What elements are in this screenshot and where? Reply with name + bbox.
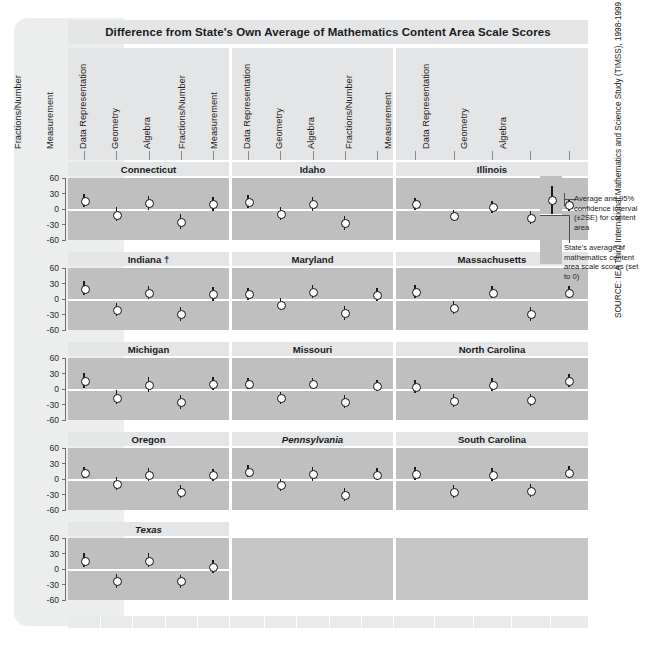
bottom-axis-tick (264, 616, 265, 628)
data-point-measurement (446, 178, 462, 240)
content-area-header-label: Geometry (99, 49, 131, 150)
data-point-geometry (173, 538, 189, 600)
state-panel-oregon: Oregon (68, 432, 229, 522)
header-tick (569, 151, 570, 160)
state-name-label: Massachusetts (458, 254, 527, 265)
data-point-fractions-number (407, 268, 423, 330)
state-plot-area (68, 358, 229, 420)
data-point-measurement (272, 448, 288, 510)
state-panel-massachusetts: Massachusetts (396, 252, 588, 342)
data-point-measurement (108, 268, 124, 330)
average-marker (341, 398, 350, 407)
header-tick (248, 151, 249, 160)
content-area-header-label: Algebra (295, 49, 327, 150)
y-axis-tick-label: 60 (49, 353, 62, 363)
data-point-measurement (272, 268, 288, 330)
average-marker (145, 199, 154, 208)
state-name-label: North Carolina (459, 344, 526, 355)
y-axis-tick: -60 (36, 595, 66, 605)
bottom-axis-tick (511, 616, 512, 628)
average-marker (245, 468, 254, 477)
content-area-header-label: Data Representation (410, 49, 442, 150)
header-tick (213, 151, 214, 160)
header-tick (530, 151, 531, 160)
y-axis-tick-mark (62, 569, 66, 570)
y-axis-tick: 30 (36, 549, 66, 559)
data-point-measurement (272, 178, 288, 240)
state-panel-title: Indiana † (68, 252, 229, 266)
average-marker (341, 309, 350, 318)
chart-legend: Average and 95% confidence interval (±2S… (592, 0, 654, 646)
data-point-geometry (173, 358, 189, 420)
average-marker (81, 285, 90, 294)
bottom-axis-tick (361, 616, 362, 628)
header-tick (149, 151, 150, 160)
data-point-data-representation (484, 178, 500, 240)
y-axis-tick-mark (62, 389, 66, 390)
y-axis-tick-label: -30 (47, 400, 62, 410)
average-marker (277, 210, 286, 219)
y-axis-tick: 30 (36, 189, 66, 199)
y-axis-tick-mark (62, 404, 66, 405)
average-marker (113, 577, 122, 586)
bottom-axis-strip (68, 616, 588, 628)
content-area-header-row: Fractions/NumberMeasurementData Represen… (68, 48, 588, 160)
content-area-header-label: Measurement (372, 49, 404, 150)
state-panel-michigan: Michigan (68, 342, 229, 432)
average-marker (177, 577, 186, 586)
panel-grid: ConnecticutIdahoIllinois60300-30-60India… (68, 162, 588, 614)
average-marker (245, 290, 254, 299)
average-marker (373, 291, 382, 300)
data-point-data-representation (141, 268, 157, 330)
y-axis-tick-mark (62, 358, 66, 359)
state-panel-connecticut: Connecticut (68, 162, 229, 252)
average-marker (309, 470, 318, 479)
average-marker (209, 380, 218, 389)
y-axis-tick-mark (62, 178, 66, 179)
average-marker (309, 380, 318, 389)
y-axis-tick-mark (62, 584, 66, 585)
average-marker (412, 383, 421, 392)
state-name-label: Illinois (477, 164, 507, 175)
average-marker (245, 380, 254, 389)
y-axis-tick-mark (62, 373, 66, 374)
y-axis-tick-label: 60 (49, 263, 62, 273)
y-axis-tick-mark (62, 283, 66, 284)
header-tick (415, 151, 416, 160)
y-axis: 60300-30-60 (36, 448, 66, 510)
y-axis-tick-mark (62, 420, 66, 421)
state-panel-empty (232, 522, 393, 612)
header-tick (492, 151, 493, 160)
average-marker (145, 289, 154, 298)
state-name-label: Oregon (131, 434, 165, 445)
state-panel-title: Pennsylvania (232, 432, 393, 446)
y-axis-tick-mark (62, 494, 66, 495)
y-axis-tick: 60 (36, 353, 66, 363)
y-axis-tick: 30 (36, 369, 66, 379)
y-axis: 60300-30-60 (36, 358, 66, 420)
y-axis-tick: -60 (36, 415, 66, 425)
y-axis-tick-mark (62, 240, 66, 241)
data-point-measurement (272, 358, 288, 420)
y-axis: 60300-30-60 (36, 268, 66, 330)
data-point-geometry (173, 448, 189, 510)
y-axis-tick-mark (62, 299, 66, 300)
state-name-label: Maryland (291, 254, 333, 265)
average-marker (527, 310, 536, 319)
y-axis-tick-label: -60 (47, 505, 62, 515)
average-marker (341, 219, 350, 228)
y-axis-tick-mark (62, 448, 66, 449)
state-plot-area (232, 358, 393, 420)
chart-title-bar: Difference from State's Own Average of M… (68, 20, 588, 44)
state-panel-title: Connecticut (68, 162, 229, 176)
y-axis-tick-label: 0 (54, 564, 62, 574)
y-axis-tick-mark (62, 330, 66, 331)
y-axis-tick: -30 (36, 490, 66, 500)
average-marker (373, 382, 382, 391)
data-point-algebra (369, 358, 385, 420)
state-panel-south-carolina: South Carolina (396, 432, 588, 522)
state-panel-title: Illinois (396, 162, 588, 176)
y-axis-tick-label: 30 (49, 369, 62, 379)
data-point-fractions-number (240, 178, 256, 240)
state-panel-empty (396, 522, 588, 612)
